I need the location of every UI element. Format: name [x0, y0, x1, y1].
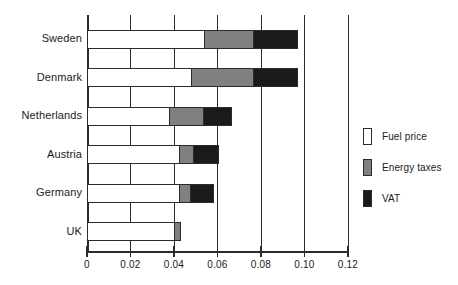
bar-segment-netherlands-vat: [203, 107, 231, 126]
gridline-0.04: [174, 15, 175, 251]
category-label-wrap-netherlands: Netherlands: [0, 109, 82, 123]
legend-swatch-fuel-price: [363, 128, 372, 145]
legend-swatch-energy-taxes: [363, 159, 372, 176]
bar-segment-netherlands-fuel-price: [87, 107, 170, 126]
bar-germany: [87, 184, 214, 203]
chart-legend: Fuel priceEnergy taxesVAT: [363, 127, 455, 220]
gridline-0.12: [348, 15, 349, 251]
legend-swatch-vat: [363, 190, 372, 207]
legend-label-vat: VAT: [382, 193, 400, 204]
category-label-denmark: Denmark: [37, 71, 82, 83]
category-label-netherlands: Netherlands: [22, 109, 82, 121]
x-tick-label-0.08: 0.08: [251, 259, 271, 270]
legend-item-fuel-price[interactable]: Fuel price: [363, 127, 455, 145]
category-label-wrap-germany: Germany: [0, 186, 82, 200]
bar-segment-austria-vat: [193, 145, 219, 164]
tick-0.04: [173, 246, 174, 257]
tick-0.12: [347, 246, 348, 257]
category-label-wrap-austria: Austria: [0, 148, 82, 162]
x-tick-label-0: 0: [84, 259, 90, 270]
bar-netherlands: [87, 107, 232, 126]
legend-label-fuel-price: Fuel price: [382, 131, 427, 142]
bar-segment-sweden-vat: [253, 30, 298, 49]
x-tick-label-0.10: 0.10: [294, 259, 314, 270]
category-label-sweden: Sweden: [42, 32, 82, 44]
legend-item-energy-taxes[interactable]: Energy taxes: [363, 158, 455, 176]
x-tick-label-0.02: 0.02: [120, 259, 140, 270]
bar-sweden: [87, 30, 298, 49]
category-label-austria: Austria: [47, 148, 82, 160]
x-tick-label-0.06: 0.06: [207, 259, 227, 270]
gridline-0.02: [130, 15, 131, 251]
tick-0: [86, 246, 87, 257]
bar-segment-sweden-fuel-price: [87, 30, 206, 49]
bar-segment-denmark-energy-taxes: [191, 68, 254, 87]
bar-segment-austria-fuel-price: [87, 145, 181, 164]
gridline-0.08: [261, 15, 262, 251]
bar-segment-uk-energy-taxes: [174, 222, 181, 241]
bar-segment-germany-fuel-price: [87, 184, 181, 203]
gridline-0: [87, 15, 88, 251]
stacked-bar-chart: 00.020.040.060.080.100.12 SwedenDenmarkN…: [0, 0, 458, 285]
legend-item-vat[interactable]: VAT: [363, 189, 455, 207]
bar-segment-denmark-vat: [253, 68, 298, 87]
gridline-0.10: [304, 15, 305, 251]
bar-segment-uk-fuel-price: [87, 222, 175, 241]
bar-segment-denmark-fuel-price: [87, 68, 193, 87]
tick-0.10: [304, 246, 305, 257]
x-tick-label-0.04: 0.04: [164, 259, 184, 270]
category-label-wrap-sweden: Sweden: [0, 32, 82, 46]
bar-uk: [87, 222, 181, 241]
category-label-wrap-denmark: Denmark: [0, 71, 82, 85]
tick-0.06: [217, 246, 218, 257]
bar-segment-germany-vat: [190, 184, 214, 203]
bar-segment-sweden-energy-taxes: [204, 30, 254, 49]
legend-label-energy-taxes: Energy taxes: [382, 162, 442, 173]
category-label-uk: UK: [67, 225, 82, 237]
category-label-germany: Germany: [36, 186, 82, 198]
tick-0.08: [260, 246, 261, 257]
tick-0.02: [130, 246, 131, 257]
bar-segment-netherlands-energy-taxes: [169, 107, 205, 126]
bar-austria: [87, 145, 219, 164]
bar-denmark: [87, 68, 298, 87]
x-tick-label-0.12: 0.12: [338, 259, 358, 270]
gridline-0.06: [217, 15, 218, 251]
category-label-wrap-uk: UK: [0, 225, 82, 239]
